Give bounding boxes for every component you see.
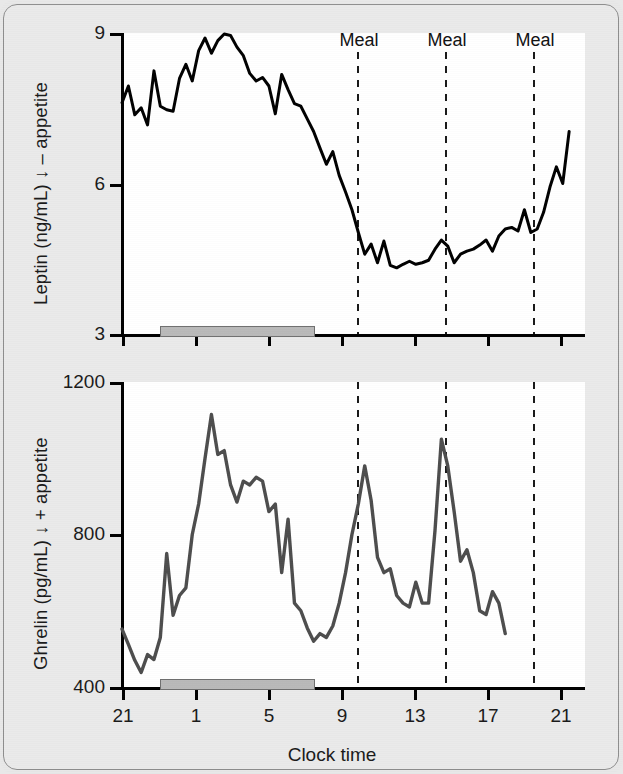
ghrelin-meal-lines [358,382,534,689]
leptin-svg-layer [0,0,623,360]
ghrelin-chart-panel: Ghrelin (pg/mL) ↓ + appetite 1200 800 40… [0,370,623,774]
leptin-meal-lines [358,52,534,336]
leptin-chart-panel: Leptin (ng/mL) ↓ – appetite 9 6 3 Meal M… [0,0,623,360]
ghrelin-data-line [122,414,505,672]
ghrelin-svg-layer [0,370,623,774]
figure-page: Leptin (ng/mL) ↓ – appetite 9 6 3 Meal M… [0,0,623,774]
leptin-data-line [122,34,569,268]
